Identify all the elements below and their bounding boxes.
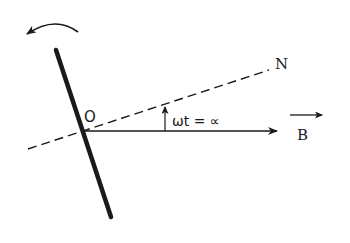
- field-label: B: [297, 126, 308, 144]
- origin-label: O: [84, 108, 96, 126]
- normal-label: N: [275, 55, 288, 73]
- rotation-arrow-icon: [27, 24, 78, 34]
- coil-rotation-diagram: O ωt = ∝ N B: [0, 0, 350, 243]
- coil-plane-line: [56, 50, 111, 217]
- angle-label: ωt = ∝: [172, 113, 220, 129]
